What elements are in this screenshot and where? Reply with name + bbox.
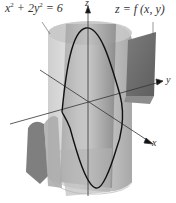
y-axis-label: y: [166, 74, 170, 85]
y-axis-arrowhead: [156, 79, 163, 85]
cylinder-equation-label: x2 + 2y2 = 6: [5, 1, 63, 16]
diagram-canvas: [0, 0, 176, 203]
surface-fxy: [26, 24, 156, 196]
x-axis-label: x: [152, 137, 156, 148]
surface-equation-label: z = f (x, y): [115, 2, 165, 17]
z-axis-label: z: [85, 0, 89, 8]
surface-cylinder-diagram: x2 + 2y2 = 6 z = f (x, y) z y x: [0, 0, 176, 203]
cylinder-label-leader: [42, 22, 50, 34]
